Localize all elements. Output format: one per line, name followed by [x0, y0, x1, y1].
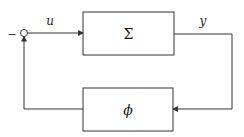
feedback-block-label: ϕ [123, 102, 133, 118]
feedback-signal-line [24, 37, 83, 110]
feedback-diagram: Σ ϕ − u y [0, 0, 244, 137]
minus-sign: − [7, 28, 16, 41]
forward-block: Σ [83, 12, 174, 55]
forward-block-label: Σ [124, 26, 134, 42]
input-signal-label: u [46, 14, 54, 28]
output-signal-label: y [199, 14, 207, 28]
summing-junction [21, 30, 28, 37]
feedback-block: ϕ [83, 88, 173, 131]
output-signal-line [173, 34, 232, 109]
